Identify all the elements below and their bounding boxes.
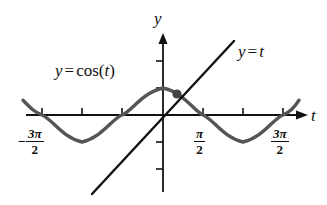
cosine-label-lhs: y xyxy=(55,61,63,80)
fraction-3pi-2: 3π 2 xyxy=(271,127,289,156)
y-axis-group xyxy=(156,33,168,192)
cosine-label-paren-close: ) xyxy=(109,61,115,80)
fraction-pi-2: π 2 xyxy=(194,127,205,156)
x-axis-arrowhead xyxy=(296,110,308,119)
y-axis-label: y xyxy=(154,10,162,27)
x-tick-label-3pi-2: 3π 2 xyxy=(271,127,289,156)
identity-label-rhs: t xyxy=(259,42,264,61)
plot-canvas xyxy=(0,0,327,205)
y-axis-arrowhead xyxy=(158,33,167,44)
x-tick-label-pi-2: π 2 xyxy=(194,127,205,156)
fraction-denominator: 2 xyxy=(26,142,44,156)
fraction-numerator: 3π xyxy=(26,127,44,142)
fraction-denominator: 2 xyxy=(194,142,205,156)
identity-label-operator: = xyxy=(246,42,260,61)
cosine-label-operator: = xyxy=(63,61,77,80)
x-axis-label: t xyxy=(311,107,316,124)
fraction-neg-3pi-2: 3π 2 xyxy=(26,127,44,156)
fraction-numerator: 3π xyxy=(271,127,289,142)
fraction-denominator: 2 xyxy=(271,142,289,156)
cosine-curve-label: y=cos(t) xyxy=(55,62,115,79)
minus-sign: − xyxy=(18,135,25,149)
x-tick-label-neg-3pi-2: − 3π 2 xyxy=(18,127,44,156)
fraction-numerator: π xyxy=(194,127,205,142)
identity-line-label: y=t xyxy=(238,43,264,60)
cosine-identity-plot: y t y=cos(t) y=t − 3π 2 π 2 3π 2 xyxy=(0,0,327,205)
identity-label-lhs: y xyxy=(238,42,246,61)
cosine-label-function: cos( xyxy=(76,61,104,80)
intersection-point xyxy=(172,89,181,98)
